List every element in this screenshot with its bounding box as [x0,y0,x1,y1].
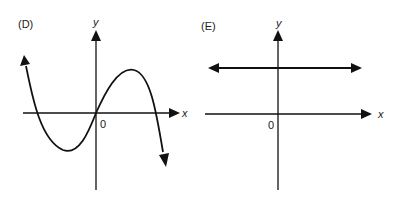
origin-label: 0 [268,119,274,131]
curve-arrow-up-icon [20,55,30,66]
figure: (D) y x 0 (E) y x 0 [0,0,395,201]
line-arrow-left-icon [208,63,219,73]
x-axis-arrow-icon [169,108,180,118]
panel-label: (E) [201,20,216,32]
x-axis-arrow-icon [361,109,372,119]
panel-d: (D) y x 0 [18,16,188,190]
y-axis-label: y [92,16,100,28]
panel-e: (E) y x 0 [201,17,384,190]
y-axis-arrow-icon [91,30,101,41]
origin-label: 0 [100,118,106,130]
cubic-curve [26,66,163,152]
y-axis-arrow-icon [273,30,283,41]
x-axis-label: x [377,108,384,120]
line-arrow-right-icon [351,63,362,73]
x-axis-label: x [181,107,188,119]
panel-label: (D) [18,18,33,30]
y-axis-label: y [275,17,283,29]
curve-arrow-down-icon [159,153,169,167]
